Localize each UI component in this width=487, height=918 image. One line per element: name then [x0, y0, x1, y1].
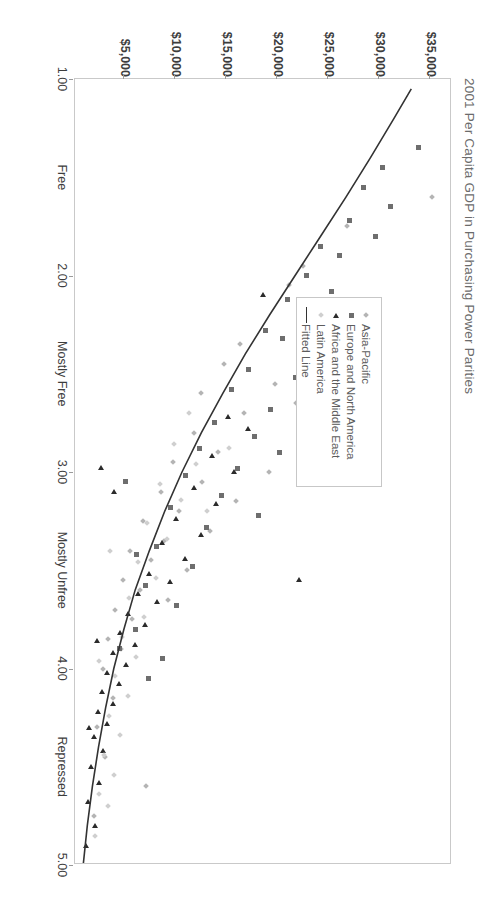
- chart-title: 2001 Per Capita GDP in Purchasing Power …: [462, 78, 477, 394]
- x-axis-tick-label: 5.00: [55, 853, 69, 877]
- legend-item: Africa and the Middle East: [329, 306, 344, 478]
- y-axis-tick-label: $15,000: [220, 3, 234, 77]
- y-axis-tick-label: $25,000: [322, 3, 336, 77]
- legend-item: Europe and North America: [344, 306, 359, 478]
- y-axis-tick-label: $10,000: [169, 3, 183, 77]
- y-axis-tick: [327, 75, 328, 79]
- x-axis-tick-label: Free: [55, 164, 69, 190]
- legend-item-label: Latin America: [316, 324, 328, 394]
- y-axis-tick: [378, 75, 379, 79]
- x-axis-tick: [69, 472, 73, 473]
- legend-item: Latin America: [314, 306, 329, 478]
- y-axis-tick-label: $20,000: [271, 3, 285, 77]
- legend-diamond-light-icon: [320, 306, 324, 324]
- legend-item-label: Fitted Line: [301, 324, 313, 378]
- legend-item-label: Africa and the Middle East: [331, 324, 343, 458]
- plot-area: [75, 79, 450, 863]
- legend-item: Asia-Pacific: [359, 306, 374, 478]
- legend-item-label: Europe and North America: [346, 324, 358, 460]
- chart-figure: 2001 Per Capita GDP in Purchasing Power …: [0, 0, 487, 918]
- y-axis-tick: [123, 75, 124, 79]
- x-axis-tick-label: Repressed: [55, 737, 69, 797]
- legend-line-icon: [306, 306, 308, 324]
- rotated-figure-wrapper: 2001 Per Capita GDP in Purchasing Power …: [0, 0, 487, 918]
- y-axis-tick-label: $5,000: [118, 3, 132, 77]
- x-axis-tick: [69, 276, 73, 277]
- x-axis-tick: [69, 865, 73, 866]
- legend-triangle-icon: [334, 306, 340, 324]
- y-axis-tick: [429, 75, 430, 79]
- x-axis-tick-label: 4.00: [55, 656, 69, 680]
- x-axis-tick: [69, 79, 73, 80]
- legend-item-label: Asia-Pacific: [361, 324, 373, 384]
- legend-item: Fitted Line: [299, 306, 314, 478]
- plot-frame: Asia-PacificEurope and North AmericaAfri…: [74, 78, 451, 864]
- x-axis-tick-label: Mostly Unfree: [55, 532, 69, 609]
- y-axis-tick: [225, 75, 226, 79]
- y-axis-tick: [174, 75, 175, 79]
- chart-legend: Asia-PacificEurope and North AmericaAfri…: [296, 297, 382, 487]
- x-axis-tick-label: 1.00: [55, 67, 69, 91]
- fitted-line: [75, 79, 450, 863]
- legend-diamond-icon: [365, 306, 369, 324]
- x-axis-tick-label: Mostly Free: [55, 341, 69, 406]
- x-axis-tick-label: 3.00: [55, 460, 69, 484]
- y-axis-tick: [276, 75, 277, 79]
- x-axis-tick: [69, 669, 73, 670]
- y-axis-tick-label: $35,000: [424, 3, 438, 77]
- legend-square-icon: [349, 306, 354, 324]
- y-axis-tick-label: $30,000: [373, 3, 387, 77]
- x-axis-tick-label: 2.00: [55, 263, 69, 287]
